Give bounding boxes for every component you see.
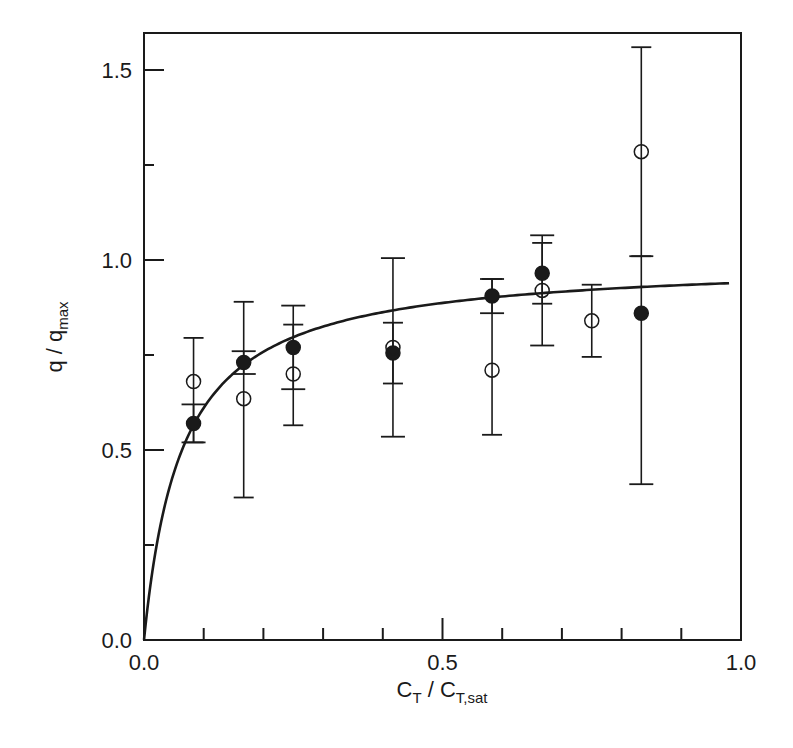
x-tick-label: 1.0	[726, 650, 757, 675]
filled-circle-marker	[485, 289, 499, 303]
open-circle-marker	[286, 367, 300, 381]
open-circle-marker	[535, 283, 549, 297]
data-markers	[187, 145, 649, 431]
x-tick-label: 0.0	[129, 650, 160, 675]
y-axis-label: q / qmax	[42, 301, 71, 373]
y-tick-label: 1.0	[101, 248, 132, 273]
open-circle-marker	[237, 392, 251, 406]
x-tick-label: 0.5	[427, 650, 458, 675]
x-axis-label: CT / CT,sat	[397, 677, 489, 706]
y-tick-label: 0.0	[101, 628, 132, 653]
plot-frame	[144, 33, 741, 640]
filled-circle-marker	[286, 340, 300, 354]
y-tick-label: 0.5	[101, 438, 132, 463]
filled-circle-marker	[237, 356, 251, 370]
filled-circle-marker	[634, 306, 648, 320]
filled-circle-marker	[535, 266, 549, 280]
filled-circle-marker	[187, 416, 201, 430]
error-bars	[182, 47, 654, 497]
open-circle-marker	[585, 314, 599, 328]
axis-ticks	[144, 70, 681, 640]
chart: 0.00.51.00.00.51.01.5 CT / CT,sat q / qm…	[0, 0, 793, 748]
y-tick-label: 1.5	[101, 58, 132, 83]
tick-labels: 0.00.51.00.00.51.01.5	[101, 58, 756, 675]
open-circle-marker	[187, 375, 201, 389]
open-circle-marker	[634, 145, 648, 159]
open-circle-marker	[386, 340, 400, 354]
open-circle-marker	[485, 363, 499, 377]
